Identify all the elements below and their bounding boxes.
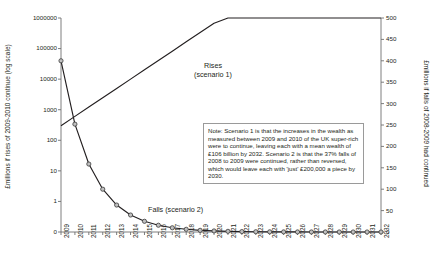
data-point-marker [365, 230, 369, 234]
data-point-marker [240, 229, 244, 233]
data-point-marker [212, 229, 216, 233]
data-point-marker [101, 187, 105, 191]
data-point-marker [323, 230, 327, 234]
data-point-marker [337, 230, 341, 234]
data-point-marker [59, 59, 63, 63]
data-point-marker [295, 230, 299, 234]
data-point-marker [170, 226, 174, 230]
series-label-falls: Falls (scenario 2) [148, 206, 224, 215]
data-point-marker [198, 228, 202, 232]
data-point-marker [254, 230, 258, 234]
data-point-marker [142, 219, 146, 223]
data-point-marker [115, 203, 119, 207]
data-point-marker [87, 162, 91, 166]
data-point-marker [156, 223, 160, 227]
data-point-marker [226, 229, 230, 233]
chart-container: £millions if rises of 2009-2010 continue… [0, 0, 432, 268]
data-point-marker [184, 227, 188, 231]
data-point-marker [309, 230, 313, 234]
data-point-marker [351, 230, 355, 234]
series-label-rises: Rises (scenario 1) [183, 62, 243, 79]
data-point-marker [282, 230, 286, 234]
data-point-marker [379, 230, 383, 234]
data-point-marker [268, 230, 272, 234]
series-label-rises-line2: (scenario 1) [183, 71, 243, 80]
data-point-marker [128, 213, 132, 217]
note-box: Note: Scenario 1 is that the increases i… [203, 123, 364, 184]
data-point-marker [73, 122, 77, 126]
